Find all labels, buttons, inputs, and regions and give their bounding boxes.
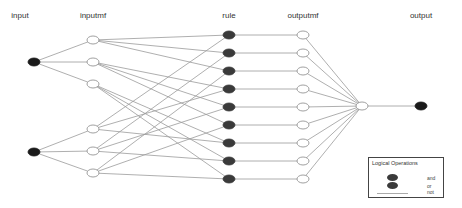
edge <box>93 40 229 53</box>
edge <box>34 40 93 62</box>
inputmf-node <box>87 58 99 66</box>
outputmf-node <box>297 103 309 111</box>
inputmf-node <box>87 147 99 155</box>
edge <box>93 84 229 161</box>
edge <box>93 62 229 125</box>
edge <box>303 106 362 125</box>
inputmf-node <box>87 36 99 44</box>
edge <box>93 151 229 161</box>
rule-node <box>223 139 235 147</box>
edge <box>34 129 93 152</box>
legend-box: Logical Operations and or not <box>368 157 444 198</box>
label-rule: rule <box>222 11 235 20</box>
aggregate-node <box>356 102 368 110</box>
edge <box>34 151 93 152</box>
inputmf-node <box>87 169 99 177</box>
rule-node <box>223 49 235 57</box>
edge <box>93 89 229 129</box>
legend-label-and: and <box>427 175 435 181</box>
outputmf-node <box>297 31 309 39</box>
inputmf-node <box>87 125 99 133</box>
edge <box>303 106 362 143</box>
outputmf-node <box>297 157 309 165</box>
and-symbol-icon <box>387 174 398 181</box>
not-symbol-icon <box>377 193 408 194</box>
edge <box>93 35 229 129</box>
or-symbol-icon <box>387 182 398 189</box>
rule-node <box>223 175 235 183</box>
edge <box>303 106 362 161</box>
edge <box>93 62 229 107</box>
edge <box>303 89 362 106</box>
edge <box>303 53 362 106</box>
outputmf-node <box>297 85 309 93</box>
edge <box>34 152 93 173</box>
edge <box>34 62 93 84</box>
rule-node <box>223 121 235 129</box>
rule-node <box>223 85 235 93</box>
label-output: output <box>410 11 432 20</box>
edge <box>303 35 362 106</box>
outputmf-node <box>297 139 309 147</box>
edge <box>303 71 362 106</box>
edge <box>93 173 229 179</box>
rule-node <box>223 31 235 39</box>
inputmf-node <box>87 80 99 88</box>
label-outputmf: outputmf <box>287 11 318 20</box>
rule-node <box>223 67 235 75</box>
input-node <box>28 58 40 66</box>
outputmf-node <box>297 67 309 75</box>
legend-title: Logical Operations <box>372 160 418 166</box>
input-node <box>28 148 40 156</box>
label-input: input <box>11 11 28 20</box>
edge <box>303 106 362 107</box>
output-node <box>415 102 427 110</box>
outputmf-node <box>297 49 309 57</box>
rule-node <box>223 157 235 165</box>
edge <box>93 71 229 173</box>
edge <box>93 35 229 40</box>
outputmf-node <box>297 175 309 183</box>
label-inputmf: inputmf <box>80 11 106 20</box>
edge <box>303 106 362 179</box>
legend-label-not: not <box>427 189 434 195</box>
rule-node <box>223 103 235 111</box>
outputmf-node <box>297 121 309 129</box>
